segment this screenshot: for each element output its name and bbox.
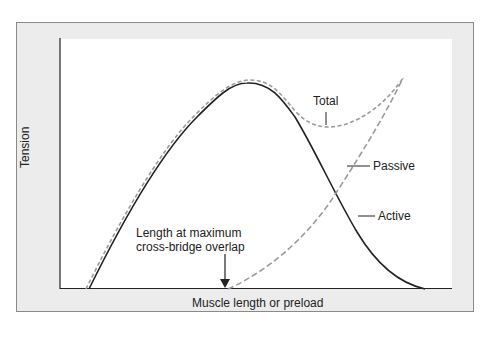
total-label: Total [313, 94, 338, 108]
passive-curve [228, 78, 403, 289]
x-axis-label: Muscle length or preload [192, 296, 323, 310]
active-curve [89, 83, 425, 289]
y-axis-label: Tension [18, 127, 32, 168]
overlap-label-line2: cross-bridge overlap [136, 240, 245, 254]
total-curve [86, 78, 403, 289]
passive-label: Passive [373, 159, 415, 173]
overlap-arrow-head-icon [220, 279, 230, 288]
overlap-label-line1: Length at maximum [136, 226, 241, 240]
active-label: Active [378, 209, 411, 223]
